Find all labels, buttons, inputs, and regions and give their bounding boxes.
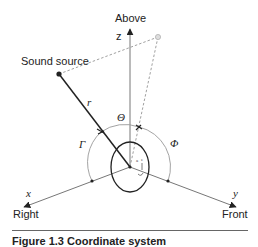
label-right: Right (13, 209, 39, 220)
phi-arc (139, 127, 171, 181)
label-phi: Φ (170, 138, 178, 149)
label-x-axis: x (26, 188, 31, 199)
mouth (138, 173, 143, 175)
eye-right: e (141, 157, 144, 162)
dashed-center-to-projection (130, 37, 158, 167)
theta-arc (101, 124, 139, 132)
sound-source-dot (56, 71, 61, 76)
eye-left: a (136, 158, 139, 163)
label-gamma: Γ (79, 139, 85, 150)
label-r: r (87, 97, 91, 108)
label-y-axis: y (233, 188, 238, 199)
caption-rule (12, 230, 248, 231)
x-axis (24, 167, 130, 207)
label-front: Front (222, 209, 248, 220)
label-above: Above (115, 13, 146, 24)
label-z-axis: z (116, 31, 122, 42)
y-axis (130, 167, 236, 207)
x-arc-dot (90, 179, 93, 182)
gamma-theta-marker (97, 129, 104, 134)
label-sound-source: Sound source (21, 56, 89, 67)
figure-caption: Figure 1.3 Coordinate system (12, 236, 166, 247)
projection-dot (155, 34, 160, 39)
y-arc-dot (166, 179, 169, 182)
label-theta: Θ (117, 112, 125, 123)
origin-dot (128, 165, 131, 168)
gamma-arc (88, 132, 101, 181)
